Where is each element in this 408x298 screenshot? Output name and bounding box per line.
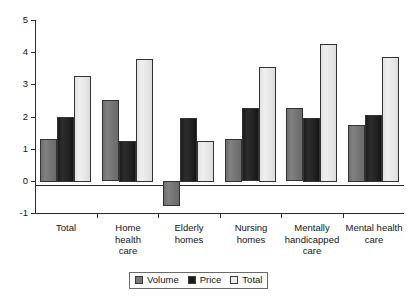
y-axis-tick (31, 117, 35, 118)
legend-label-total: Total (242, 275, 262, 285)
y-axis-tick-label: 0 (0, 176, 28, 185)
x-axis-category-label-line: care (275, 245, 349, 257)
bar-total (259, 67, 276, 182)
legend-label-price: Price (200, 275, 222, 285)
bar-total (197, 141, 214, 182)
legend-swatch-volume-icon (135, 276, 143, 284)
x-axis-group-tick (343, 214, 344, 218)
y-axis-tick-label: 4 (0, 47, 28, 56)
y-axis-tick-label: 3 (0, 79, 28, 88)
chart-legend: Volume Price Total (129, 272, 268, 289)
bar-volume (286, 108, 303, 181)
bar-price (303, 118, 320, 182)
x-axis-group-tick (158, 214, 159, 218)
legend-swatch-total-icon (230, 276, 238, 284)
bar-total (320, 44, 337, 182)
y-axis-tick (31, 52, 35, 53)
y-axis-tick (31, 84, 35, 85)
bar-price (119, 141, 136, 182)
legend-label-volume: Volume (147, 275, 179, 285)
legend-swatch-price-icon (188, 276, 196, 284)
x-axis-category-label: Mental healthcare (337, 222, 408, 245)
legend-item-volume: Volume (135, 275, 179, 285)
y-axis-tick (31, 149, 35, 150)
bar-volume (102, 100, 119, 181)
x-axis-group-tick (220, 214, 221, 218)
y-axis-tick-label: 2 (0, 112, 28, 121)
bar-price (365, 115, 382, 182)
bar-price (57, 117, 74, 182)
bar-volume (348, 125, 365, 182)
bar-total (136, 59, 153, 182)
zero-reference-line (35, 185, 404, 186)
y-axis-tick-label: 1 (0, 144, 28, 153)
x-axis-group-tick (97, 214, 98, 218)
bar-chart: -1012345 TotalHomehealthcareElderlyhomes… (0, 0, 408, 298)
y-axis-tick-label: -1 (0, 208, 28, 217)
legend-item-total: Total (230, 275, 262, 285)
x-axis-category-label-line: care (337, 234, 408, 246)
bar-total (74, 76, 91, 182)
bar-price (242, 108, 259, 181)
bar-total (382, 57, 399, 182)
x-axis-group-tick (281, 214, 282, 218)
x-axis-category-label-line: care (91, 245, 165, 257)
y-axis-tick-label: 5 (0, 15, 28, 24)
legend-item-price: Price (188, 275, 222, 285)
x-axis-category-label-line: Mental health (337, 222, 408, 234)
y-axis-tick (31, 181, 35, 182)
y-axis-tick (31, 213, 35, 214)
bar-volume (225, 139, 242, 182)
y-axis-tick (31, 20, 35, 21)
bar-price (180, 118, 197, 182)
bar-volume (40, 139, 57, 182)
bar-volume (163, 181, 180, 206)
